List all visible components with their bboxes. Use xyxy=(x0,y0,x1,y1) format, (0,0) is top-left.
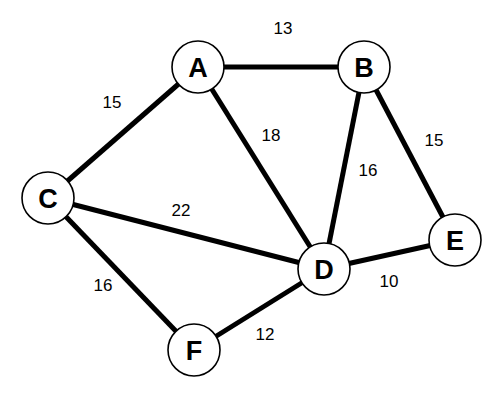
edge-weight-b-e: 15 xyxy=(425,131,444,150)
edge-a-c xyxy=(48,67,198,198)
edge-weight-a-b: 13 xyxy=(274,19,293,38)
node-e: E xyxy=(429,214,481,266)
edge-weight-a-d: 18 xyxy=(262,126,281,145)
edge-weight-c-d: 22 xyxy=(172,201,191,220)
node-a: A xyxy=(172,41,224,93)
node-label: C xyxy=(38,184,58,214)
node-f: F xyxy=(168,324,220,376)
edge-weight-a-c: 15 xyxy=(103,93,122,112)
node-b: B xyxy=(338,41,390,93)
edge-b-e xyxy=(364,67,455,240)
node-c: C xyxy=(22,172,74,224)
edge-a-d xyxy=(198,67,324,269)
edge-weight-b-d: 16 xyxy=(359,161,378,180)
node-d: D xyxy=(298,243,350,295)
edge-c-f xyxy=(48,198,194,350)
node-label: A xyxy=(188,53,208,83)
node-label: B xyxy=(354,53,374,83)
edge-weight-d-f: 12 xyxy=(256,325,275,344)
edge-weight-d-e: 10 xyxy=(380,272,399,291)
node-label: F xyxy=(186,336,203,366)
node-label: D xyxy=(314,255,334,285)
weighted-graph-diagram: 131518161522161012 ABCDEF xyxy=(0,0,503,394)
edge-weight-c-f: 16 xyxy=(94,276,113,295)
node-label: E xyxy=(446,226,464,256)
